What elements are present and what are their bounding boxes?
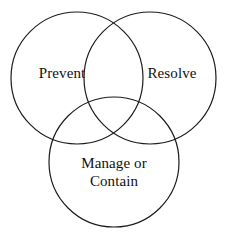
- venn-diagram: Prevent Resolve Manage or Contain: [0, 0, 227, 238]
- venn-label-prevent: Prevent: [12, 64, 112, 82]
- venn-circles-canvas: [0, 0, 227, 238]
- venn-label-manage-or-contain: Manage or Contain: [54, 154, 174, 190]
- venn-label-resolve: Resolve: [122, 64, 222, 82]
